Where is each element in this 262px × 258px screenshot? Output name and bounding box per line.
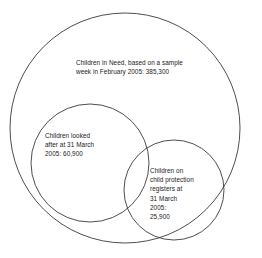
circle-children-looked-after [31,104,149,222]
venn-circles-svg [0,0,262,258]
venn-diagram-figure: Children in Need, based on a sample week… [0,0,262,258]
label-children-on-child-protection-registers: Children on child protection registers a… [150,166,212,221]
label-children-in-need: Children in Need, based on a sample week… [76,58,201,76]
label-children-looked-after: Children looked after at 31 March 2005: … [45,131,120,159]
